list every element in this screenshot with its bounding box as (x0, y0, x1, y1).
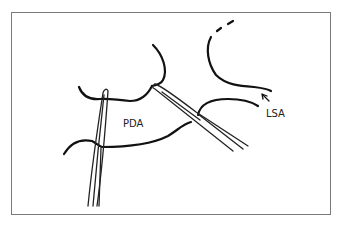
pda-label: PDA (123, 118, 144, 129)
lsa-label: LSA (266, 108, 285, 119)
right-forceps (153, 84, 248, 151)
pda-illustration: PDA LSA (0, 0, 344, 228)
aorta-right-curve (208, 37, 271, 91)
pda-upper-wall (79, 86, 152, 101)
descending-aorta-curve (198, 99, 258, 115)
aortic-arch-curve (152, 45, 165, 86)
lsa-arrow (262, 94, 269, 101)
aorta-dashed-continuation (217, 21, 233, 31)
diagram-figure: PDA LSA (0, 0, 344, 228)
